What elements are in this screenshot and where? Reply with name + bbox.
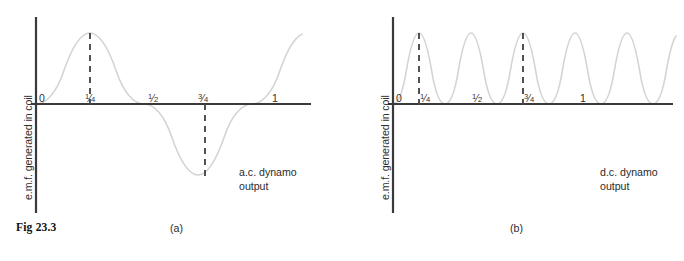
- sub-caption-a: (a): [170, 222, 183, 234]
- x-tick-quarter-a: 1⁄4: [85, 92, 95, 105]
- x-tick-tq-num-b: 3: [524, 92, 528, 101]
- annotation-ac-dynamo: a.c. dynamo output: [239, 166, 297, 193]
- x-tick-0-a: 0: [39, 92, 45, 104]
- x-tick-1-b: 1: [580, 92, 586, 104]
- x-tick-half-den-a: 2: [154, 95, 158, 104]
- x-tick-tq-den-a: 4: [204, 95, 208, 104]
- x-tick-quarter-num-a: 1: [85, 92, 89, 101]
- x-tick-threequarter-a: 3⁄4: [198, 92, 208, 105]
- y-axis-label-b: e.m.f. generated in coil: [379, 95, 391, 200]
- x-tick-half-a: 1⁄2: [148, 92, 158, 105]
- x-tick-0-b: 0: [396, 92, 402, 104]
- x-tick-half-den-b: 2: [478, 95, 482, 104]
- x-tick-tq-den-b: 4: [530, 95, 534, 104]
- x-tick-quarter-den-a: 4: [91, 95, 95, 104]
- dc-rectified-curve: [393, 33, 676, 104]
- figure-23-3: e.m.f. generated in coil 0 1⁄4 1⁄2 3⁄4 1…: [0, 0, 684, 261]
- x-tick-threequarter-b: 3⁄4: [524, 92, 534, 105]
- x-tick-quarter-num-b: 1: [420, 92, 424, 101]
- x-tick-quarter-den-b: 4: [426, 95, 430, 104]
- x-tick-quarter-b: 1⁄4: [420, 92, 430, 105]
- x-tick-half-num-b: 1: [472, 92, 476, 101]
- panel-b-dc-dynamo: e.m.f. generated in coil 0 1⁄4 1⁄2 3⁄4 1…: [342, 0, 684, 261]
- x-tick-half-b: 1⁄2: [472, 92, 482, 105]
- sub-caption-b: (b): [510, 222, 523, 234]
- annotation-dc-dynamo: d.c. dynamo output: [600, 166, 658, 193]
- y-axis-label-a: e.m.f. generated in coil: [22, 95, 34, 200]
- x-tick-half-num-a: 1: [148, 92, 152, 101]
- x-tick-1-a: 1: [272, 92, 278, 104]
- figure-caption: Fig 23.3: [16, 221, 57, 233]
- x-tick-tq-num-a: 3: [198, 92, 202, 101]
